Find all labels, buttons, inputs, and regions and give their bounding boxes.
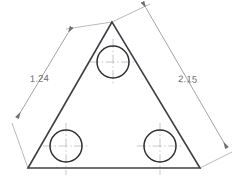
drawing-canvas: 1.24 2.15: [0, 0, 250, 182]
ext-line-left-lower: [12, 123, 28, 168]
dimension-label-left-side: 1.24: [30, 72, 50, 84]
ext-line-left-upper: [66, 22, 112, 29]
ext-line-right-upper: [112, 4, 150, 22]
technical-drawing-svg: 1.24 2.15: [0, 0, 250, 182]
ext-line-right-lower: [200, 152, 232, 168]
dimension-label-right-side: 2.15: [178, 73, 198, 85]
dimension-extension-lines: [12, 4, 232, 168]
